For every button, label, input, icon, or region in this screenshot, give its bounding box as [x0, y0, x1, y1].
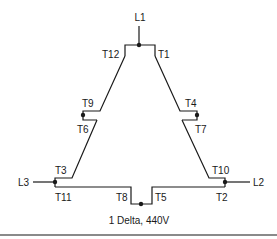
winding-bottom: [55, 187, 225, 204]
l1-junction-dot: [137, 43, 141, 47]
label-t7: T7: [195, 124, 207, 135]
label-t5: T5: [155, 192, 167, 203]
label-t9: T9: [82, 98, 94, 109]
winding-t12-t9: [83, 56, 125, 120]
t9-t6-junction-dot: [81, 113, 85, 117]
delta-wiring-diagram: L1 L3 L2 T12 T1 T9 T4 T6 T7 T3 T10 T11 T…: [0, 0, 277, 239]
label-t10: T10: [212, 165, 230, 176]
label-t11: T11: [55, 192, 72, 203]
bottom-divider: [0, 234, 277, 236]
t8-t5-junction-dot: [139, 202, 143, 206]
label-t4: T4: [185, 98, 197, 109]
label-t8: T8: [116, 192, 128, 203]
label-l1: L1: [134, 12, 146, 23]
label-t12: T12: [102, 49, 120, 60]
diagram-caption: 1 Delta, 440V: [109, 215, 170, 226]
label-l2: L2: [253, 177, 265, 188]
label-t3: T3: [55, 165, 67, 176]
label-l3: L3: [18, 177, 30, 188]
label-t2: T2: [216, 192, 228, 203]
label-t6: T6: [77, 124, 89, 135]
label-t1: T1: [158, 49, 170, 60]
winding-t1-t4: [155, 56, 197, 120]
winding-t6-t3: [55, 120, 97, 187]
t4-t7-junction-dot: [195, 113, 199, 117]
